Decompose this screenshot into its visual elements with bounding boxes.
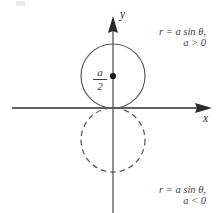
annotation-lower-equation: r = a sin θ,	[118, 184, 206, 195]
y-axis-arrowhead	[108, 16, 118, 33]
radius-label-fraction: a 2	[92, 67, 108, 93]
annotation-lower: r = a sin θ, a < 0	[118, 184, 206, 206]
annotation-lower-condition: a < 0	[118, 195, 206, 206]
fraction-denominator: 2	[92, 81, 108, 93]
y-axis-label: y	[120, 8, 125, 20]
circle-center-dot	[110, 73, 116, 79]
polar-graph-figure: a 2 y x r = a sin θ, a > 0 r = a sin θ, …	[0, 0, 219, 213]
fraction-numerator: a	[92, 67, 108, 78]
annotation-upper-condition: a > 0	[126, 37, 206, 48]
annotation-upper-equation: r = a sin θ,	[126, 26, 206, 37]
x-axis-label: x	[203, 112, 208, 124]
annotation-upper: r = a sin θ, a > 0	[126, 26, 206, 48]
